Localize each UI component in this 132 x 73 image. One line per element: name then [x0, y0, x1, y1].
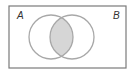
set-b-label: B [113, 10, 120, 21]
venn-diagram: A B [0, 0, 132, 73]
set-a-label: A [16, 10, 24, 21]
